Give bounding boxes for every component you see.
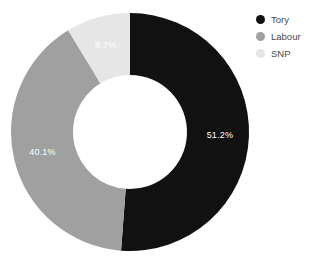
donut-svg: 51.2%40.1%8.7%: [0, 0, 260, 264]
slice-label-labour: 40.1%: [29, 147, 56, 157]
legend-item-snp[interactable]: SNP: [256, 45, 319, 62]
legend-label: Tory: [271, 14, 289, 25]
legend-swatch-icon: [256, 15, 265, 24]
donut-chart: 51.2%40.1%8.7% ToryLabourSNP: [0, 0, 319, 264]
legend-swatch-icon: [256, 32, 265, 41]
slice-label-snp: 8.7%: [95, 40, 116, 50]
legend-item-labour[interactable]: Labour: [256, 28, 319, 45]
legend-label: SNP: [271, 48, 291, 59]
chart-legend: ToryLabourSNP: [256, 11, 319, 62]
slice-label-tory: 51.2%: [207, 130, 234, 140]
legend-item-tory[interactable]: Tory: [256, 11, 319, 28]
legend-swatch-icon: [256, 49, 265, 58]
donut-plot-area: 51.2%40.1%8.7%: [0, 0, 260, 264]
legend-label: Labour: [271, 31, 301, 42]
